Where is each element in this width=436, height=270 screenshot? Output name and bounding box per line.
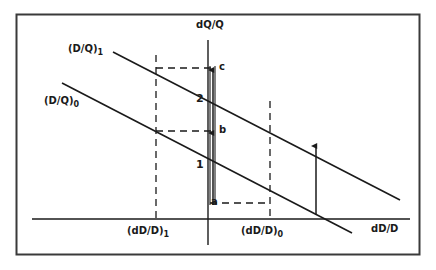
x-tick-label-0: (dD/D)0 bbox=[241, 226, 283, 239]
x-axis-label: dD/D bbox=[371, 224, 398, 234]
curve-label-upper: (D/Q)1 bbox=[68, 44, 103, 57]
curve-label-lower-subscript: 0 bbox=[74, 100, 80, 109]
segment-label-2: 2 bbox=[196, 93, 204, 104]
x-tick-label-1-subscript: 1 bbox=[164, 230, 170, 239]
curve-label-upper-subscript: 1 bbox=[98, 48, 104, 57]
point-label-c: c bbox=[219, 62, 225, 72]
curve-label-lower: (D/Q)0 bbox=[44, 96, 79, 109]
point-label-b: b bbox=[219, 125, 226, 135]
x-tick-label-0-subscript: 0 bbox=[278, 230, 284, 239]
segment-label-1: 1 bbox=[196, 159, 204, 170]
curve-label-lower-text: (D/Q) bbox=[44, 95, 74, 106]
diagram-canvas: dQ/Q dD/D (D/Q)1 (D/Q)0 (dD/D)1 (dD/D)0 … bbox=[0, 0, 436, 270]
x-tick-label-1: (dD/D)1 bbox=[127, 226, 169, 239]
x-tick-label-0-text: (dD/D) bbox=[241, 225, 278, 236]
y-axis-label: dQ/Q bbox=[196, 20, 224, 30]
curve-line-lower bbox=[62, 83, 352, 233]
curve-label-upper-text: (D/Q) bbox=[68, 43, 98, 54]
x-tick-label-1-text: (dD/D) bbox=[127, 225, 164, 236]
point-label-a: a bbox=[211, 197, 218, 207]
